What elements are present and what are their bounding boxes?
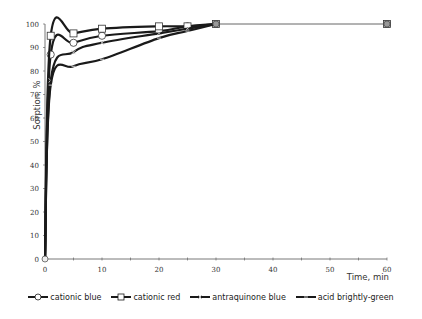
legend-label: antraquinone blue [212, 293, 285, 302]
legend: cationic blue cationic red antraquinone … [0, 289, 422, 305]
y-tick-label: 0 [35, 256, 39, 264]
y-tick-label: 20 [30, 209, 39, 217]
legend-item-cationic-red: cationic red [111, 293, 180, 302]
y-tick-label: 10 [30, 232, 39, 240]
series-line-antraquinone-blue [45, 24, 216, 259]
data-point-circle [70, 39, 77, 46]
axes: 01020304050607080901000102030405060 [26, 21, 392, 275]
data-point-square [47, 32, 54, 39]
legend-label: cationic blue [50, 293, 101, 302]
data-point-circle [98, 32, 105, 39]
origin-marker [42, 256, 48, 262]
legend-item-acid-brightly-green: acid brightly-green [296, 293, 394, 302]
data-point-merged [384, 21, 390, 27]
legend-item-antraquinone-blue: antraquinone blue [190, 293, 285, 302]
sorption-chart: 01020304050607080901000102030405060 Sorp… [0, 0, 422, 290]
data-point-square [70, 30, 77, 37]
x-tick-label: 50 [326, 266, 335, 274]
y-tick-label: 30 [30, 185, 39, 193]
y-tick-label: 80 [30, 68, 39, 76]
y-tick-label: 40 [30, 162, 39, 170]
y-axis-title: Sorption, % [32, 80, 42, 129]
y-tick-label: 100 [26, 21, 39, 29]
series-line-cationic-blue [45, 24, 216, 259]
series-line-acid-brightly-green [45, 24, 216, 259]
x-tick-label: 40 [269, 266, 278, 274]
dash-marker-icon [296, 293, 316, 301]
x-axis-title: Time, min [346, 272, 389, 282]
x-marker-icon [190, 293, 210, 301]
square-marker-icon [111, 293, 131, 301]
legend-label: acid brightly-green [318, 293, 394, 302]
y-tick-label: 50 [30, 138, 39, 146]
data-point-merged [213, 21, 219, 27]
legend-label: cationic red [133, 293, 180, 302]
series-layer [42, 17, 391, 262]
x-tick-label: 10 [98, 266, 107, 274]
data-point-square [99, 25, 106, 32]
y-tick-label: 90 [30, 44, 39, 52]
data-point-square [156, 23, 163, 30]
x-tick-label: 0 [43, 266, 47, 274]
circle-marker-icon [28, 293, 48, 301]
x-tick-label: 30 [212, 266, 221, 274]
x-tick-label: 20 [155, 266, 164, 274]
legend-item-cationic-blue: cationic blue [28, 293, 101, 302]
